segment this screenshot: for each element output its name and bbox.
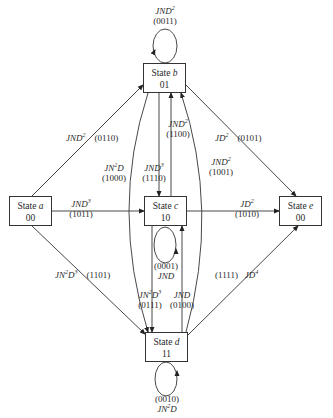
edge-d-e: [188, 226, 298, 335]
state-a: State a 00: [9, 196, 52, 226]
state-prefix: State: [151, 68, 170, 78]
state-letter: c: [174, 201, 178, 211]
label-b-b: JND2 (0011): [150, 6, 180, 26]
label-c-b: JND2 (1100): [163, 119, 193, 139]
state-code: 10: [145, 212, 186, 224]
state-letter: a: [39, 201, 44, 211]
state-prefix: State: [153, 201, 172, 211]
state-prefix: State: [17, 201, 36, 211]
state-c: State c 10: [144, 196, 187, 226]
label-a-d: JN2D3 (1101): [55, 270, 110, 280]
label-c-c: (0001) JND: [151, 261, 181, 281]
label-c-e: JD2 (1010): [232, 199, 262, 219]
edge-a-d: [32, 226, 145, 334]
state-code: 11: [146, 348, 187, 360]
label-a-b: JND2 (0110): [66, 133, 118, 143]
state-code: 00: [10, 212, 51, 224]
label-b-d: JN2D (1000): [99, 163, 129, 183]
state-prefix: State: [288, 201, 307, 211]
label-d-e: (1111) JD4: [215, 270, 258, 280]
state-prefix: State: [153, 337, 172, 347]
edge-d-d-loop: [155, 362, 177, 396]
state-b: State b 01: [143, 63, 186, 93]
label-b-e: JD2 (0101): [215, 133, 262, 143]
state-e: State e 00: [279, 196, 322, 226]
state-letter: d: [175, 337, 180, 347]
label-d-b: JND2 (1001): [206, 157, 236, 177]
edge-c-c-loop: [154, 227, 176, 263]
state-letter: e: [309, 201, 313, 211]
label-d-c: JND (0100): [167, 290, 197, 310]
state-letter: b: [173, 68, 178, 78]
label-d-d: (0010) JN2D: [152, 394, 182, 414]
state-d: State d 11: [145, 332, 188, 362]
label-b-c: JND3 (1110): [139, 163, 169, 183]
state-code: 00: [280, 212, 321, 224]
edge-b-b-loop: [153, 29, 177, 63]
state-code: 01: [144, 79, 185, 91]
label-c-d: JN2D3 (0111): [135, 290, 165, 310]
label-a-c: JND3 (1011): [66, 199, 96, 219]
